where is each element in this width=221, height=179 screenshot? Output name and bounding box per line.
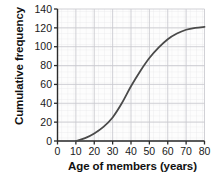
x-tick-label: 40 (125, 145, 137, 157)
x-axis-tick-labels: 01020304050607080 (55, 145, 211, 157)
x-tick-label: 50 (144, 145, 156, 157)
y-tick-label: 140 (34, 3, 52, 15)
x-tick-label: 0 (55, 145, 61, 157)
x-tick-label: 20 (88, 145, 100, 157)
x-tick-label: 80 (199, 145, 211, 157)
x-tick-label: 30 (107, 145, 119, 157)
x-tick-label: 60 (162, 145, 174, 157)
plot-area: 020406080100120140 01020304050607080 (0, 0, 221, 179)
y-tick-label: 120 (34, 22, 52, 34)
cumulative-frequency-chart: g Cumulative frequency Age of members (y… (0, 0, 221, 179)
y-tick-label: 0 (46, 135, 52, 147)
y-tick-label: 80 (40, 59, 52, 71)
x-tick-label: 10 (70, 145, 82, 157)
y-tick-label: 40 (40, 97, 52, 109)
y-tick-label: 20 (40, 116, 52, 128)
y-tick-label: 100 (34, 40, 52, 52)
x-tick-label: 70 (180, 145, 192, 157)
y-axis-tick-labels: 020406080100120140 (34, 3, 52, 147)
y-tick-label: 60 (40, 78, 52, 90)
